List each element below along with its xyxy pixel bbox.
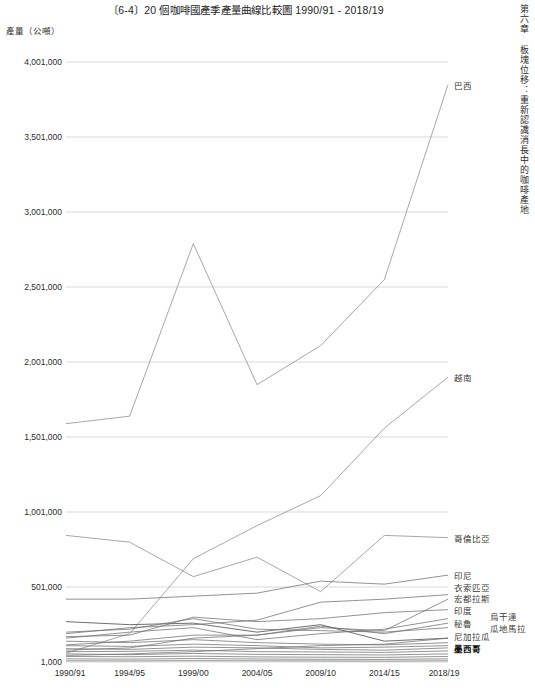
x-tick-label: 2009/10: [305, 668, 336, 678]
series-line: [66, 599, 448, 645]
series-end-label: 哥倫比亞: [454, 532, 490, 544]
series-end-label: 宏都拉斯: [454, 592, 490, 604]
x-tick-label: 2018/19: [429, 668, 460, 678]
chapter-running-head: 第六章 板塊位移：重新認識消長中的咖啡產地: [513, 4, 529, 215]
series-end-label: 烏干達: [490, 610, 517, 622]
y-axis-tick-labels: 1,000501,0001,001,0001,501,0002,001,0002…: [0, 62, 62, 662]
series-end-label: 瓜地馬拉: [490, 622, 526, 634]
series-end-label: 秘魯: [454, 617, 472, 629]
series-line: [66, 85, 448, 424]
series-end-label: 巴西: [454, 79, 472, 91]
series-line: [66, 377, 448, 653]
x-tick-label: 2014/15: [369, 668, 400, 678]
y-tick-label: 1,000: [4, 657, 62, 667]
series-end-label: 尼加拉瓜: [454, 630, 490, 642]
y-tick-label: 4,001,000: [4, 57, 62, 67]
series-end-label: 衣索匹亞: [454, 581, 490, 593]
x-tick-label: 1990/91: [55, 668, 86, 678]
series-end-label: 印尼: [454, 569, 472, 581]
y-axis-unit-caption: 產量（公噸）: [6, 24, 60, 36]
y-tick-label: 3,501,000: [4, 132, 62, 142]
series-end-label: 越南: [454, 371, 472, 383]
y-tick-label: 1,001,000: [4, 507, 62, 517]
y-tick-label: 2,001,000: [4, 357, 62, 367]
x-tick-label: 1994/95: [114, 668, 145, 678]
page-title: 〔6-4〕20 個咖啡國產季產量曲線比較圖 1990/91 - 2018/19: [0, 2, 492, 17]
x-tick-label: 1999/00: [178, 668, 209, 678]
series-line: [66, 650, 448, 652]
series-paths: [66, 85, 448, 661]
series-end-label: 墨西哥: [454, 642, 481, 654]
gridlines: [66, 62, 448, 662]
series-line: [66, 653, 448, 655]
x-tick-label: 2004/05: [242, 668, 273, 678]
x-axis-tick-labels: 1990/911994/951999/002004/052009/102014/…: [66, 668, 448, 684]
plot-area: [66, 62, 448, 662]
series-line: [66, 619, 448, 633]
y-tick-label: 3,001,000: [4, 207, 62, 217]
y-tick-label: 501,000: [4, 582, 62, 592]
series-line: [66, 659, 448, 660]
chart-lines: [66, 62, 448, 662]
y-tick-label: 1,501,000: [4, 432, 62, 442]
series-line: [66, 656, 448, 657]
series-end-label: 印度: [454, 604, 472, 616]
y-tick-label: 2,501,000: [4, 282, 62, 292]
